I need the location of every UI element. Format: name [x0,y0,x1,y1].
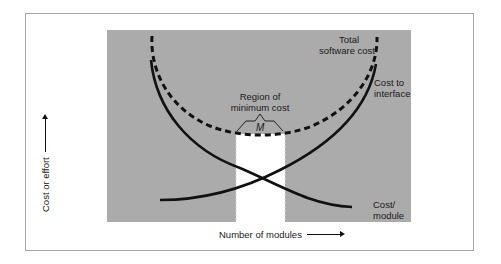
region-label-line2: minimum cost [220,102,300,113]
y-axis-arrow-icon [45,118,47,152]
x-axis-arrow-icon [307,234,341,236]
cost-per-module-label: Cost/ module [373,199,404,221]
y-axis-label: Cost or effort [40,118,51,212]
interface-label-line2: interface [374,88,410,99]
module-label-line2: module [373,210,404,221]
x-axis-label: Number of modules [219,229,341,240]
module-label-line1: Cost/ [373,199,404,210]
region-label: Region of minimum cost [220,91,300,113]
total-cost-label-line1: Total [317,34,375,45]
cost-vs-modules-diagram [0,0,501,264]
interface-label-line1: Cost to [374,77,410,88]
region-label-line1: Region of [220,91,300,102]
region-symbol-m: M [256,122,264,133]
total-cost-label: Total software cost [317,34,375,56]
x-axis-label-text: Number of modules [219,229,302,240]
cost-to-interface-label: Cost to interface [374,77,410,99]
total-cost-label-line2: software cost [317,45,375,56]
y-axis-label-text: Cost or effort [40,157,51,212]
